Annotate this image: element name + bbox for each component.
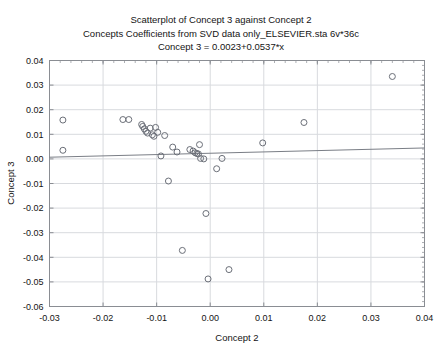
data-point — [126, 117, 132, 123]
data-point — [170, 144, 176, 150]
y-tick-label: 0.01 — [26, 130, 44, 140]
data-points — [60, 73, 395, 281]
y-tick-label: 0.04 — [26, 56, 44, 66]
x-tick-label: 0.01 — [255, 313, 273, 323]
y-tick-label: 0.03 — [26, 80, 44, 90]
y-axis-tick-labels: -0.06-0.05-0.04-0.03-0.02-0.010.000.010.… — [23, 56, 44, 312]
data-point — [203, 211, 209, 217]
y-tick-label: -0.03 — [23, 228, 44, 238]
x-tick-label: -0.02 — [93, 313, 114, 323]
data-point — [389, 73, 395, 79]
data-point — [158, 153, 164, 159]
regression-line — [50, 148, 425, 157]
y-tick-label: 0.00 — [26, 154, 44, 164]
data-point — [214, 166, 220, 172]
x-tick-label: 0.03 — [362, 313, 380, 323]
gridlines — [50, 61, 425, 307]
plot-canvas: -0.03-0.02-0.010.000.010.020.030.04 -0.0… — [0, 0, 442, 352]
x-tick-label: -0.01 — [146, 313, 167, 323]
data-point — [120, 117, 126, 123]
y-tick-label: -0.05 — [23, 277, 44, 287]
y-tick-label: -0.06 — [23, 302, 44, 312]
y-tick-label: -0.02 — [23, 203, 44, 213]
y-tick-label: 0.02 — [26, 105, 44, 115]
data-point — [301, 119, 307, 125]
data-point — [179, 247, 185, 253]
x-axis-title: Concept 2 — [215, 332, 258, 343]
x-axis-tick-labels: -0.03-0.02-0.010.000.010.020.030.04 — [39, 313, 433, 323]
x-tick-label: 0.04 — [416, 313, 434, 323]
data-point — [226, 267, 232, 273]
y-axis-title: Concept 3 — [5, 161, 16, 204]
y-tick-label: -0.01 — [23, 179, 44, 189]
data-point — [60, 147, 66, 153]
x-tick-label: 0.02 — [309, 313, 327, 323]
data-point — [162, 133, 168, 139]
x-tick-label: -0.03 — [39, 313, 60, 323]
data-point — [60, 117, 66, 123]
y-tick-label: -0.04 — [23, 253, 44, 263]
data-point — [260, 140, 266, 146]
x-tick-label: 0.00 — [201, 313, 219, 323]
scatterplot-figure: Scatterplot of Concept 3 against Concept… — [0, 0, 442, 352]
data-point — [197, 142, 203, 148]
